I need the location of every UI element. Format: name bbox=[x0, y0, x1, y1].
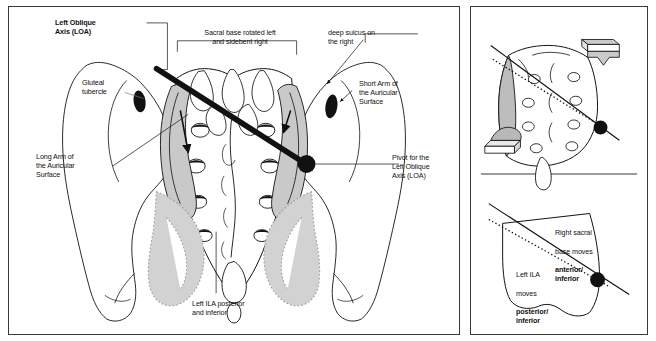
label-deep-sulcus: deep sulcus on the right bbox=[328, 28, 402, 46]
left-ila-line1: Left ILA bbox=[516, 270, 540, 279]
label-left-ila: Left ILA posterior and inferior bbox=[192, 299, 282, 317]
left-ila-emphasis: posterior/ inferior bbox=[516, 307, 548, 325]
label-left-ila-moves: Left ILA moves posterior/ inferior bbox=[516, 261, 570, 325]
main-pelvis-panel: Left Oblique Axis (LOA) Sacral base rota… bbox=[8, 6, 460, 335]
label-short-arm: Short Arm of the Auricular Surface bbox=[359, 79, 421, 107]
side-sacrum-panel: Right sacral base moves anterior/ inferi… bbox=[470, 6, 648, 335]
label-long-arm: Long Arm of the Auricular Surface bbox=[36, 152, 98, 180]
right-sacral-base-line2: base moves bbox=[555, 247, 593, 256]
label-sacral-base: Sacral base rotated left and sidebent ri… bbox=[183, 28, 297, 46]
sacrum-posterior-view bbox=[491, 45, 620, 189]
force-arrow-up-block bbox=[485, 127, 521, 153]
pivot-point-top bbox=[594, 121, 608, 135]
left-ila-line2: moves bbox=[516, 289, 537, 298]
label-pivot: Pivot for the Left Oblique Axis (LOA) bbox=[392, 153, 454, 181]
anatomy-figure: Left Oblique Axis (LOA) Sacral base rota… bbox=[0, 0, 656, 341]
label-gluteal-tubercle: Gluteal tubercle bbox=[82, 78, 132, 96]
pivot-point bbox=[298, 155, 316, 173]
label-left-oblique-axis: Left Oblique Axis (LOA) bbox=[55, 18, 117, 36]
right-sacral-base-line1: Right sacral bbox=[555, 228, 592, 237]
